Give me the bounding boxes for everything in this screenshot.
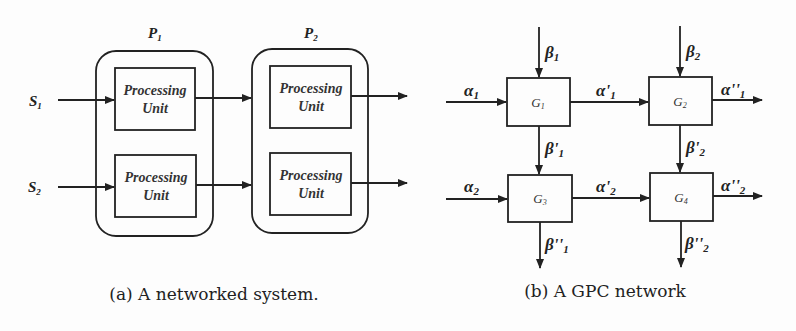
unit-label: Processing	[280, 168, 343, 183]
label-alpha-prime-2: α'2	[596, 177, 616, 197]
gpc-network-diagram: G1 G2 G3 G4 α1 α2 α'1 α'2 α''1 α''2 β1 β…	[446, 26, 762, 301]
label-alpha1: α1	[464, 81, 479, 101]
input-label-s1: S1	[29, 93, 42, 111]
processor-p1: P1 Processing Unit Processing Unit	[96, 25, 213, 236]
input-label-s2: S2	[28, 179, 41, 197]
label-beta-dprime-1: β''1	[544, 235, 569, 255]
caption-a: (a) A networked system.	[109, 284, 318, 304]
unit-label: Unit	[142, 101, 169, 116]
processing-unit	[115, 155, 196, 217]
node-label: G4	[674, 190, 687, 206]
unit-label: Unit	[143, 188, 170, 203]
processing-unit	[270, 66, 351, 128]
node-label: G3	[533, 191, 546, 207]
unit-label: Processing	[280, 81, 343, 96]
unit-label: Processing	[124, 83, 187, 98]
processor-label: P2	[304, 25, 318, 43]
figure-canvas: P1 Processing Unit Processing Unit P2 Pr…	[0, 0, 796, 331]
unit-label: Processing	[125, 170, 188, 185]
processing-unit	[270, 153, 351, 215]
label-alpha-prime-1: α'1	[596, 81, 616, 101]
label-beta-dprime-2: β''2	[684, 234, 709, 254]
unit-label: Unit	[298, 99, 325, 114]
processor-p2: P2 Processing Unit Processing Unit	[252, 25, 368, 233]
label-beta1: β1	[544, 43, 559, 63]
label-beta-prime-2: β'2	[685, 138, 705, 158]
label-beta2: β2	[685, 42, 701, 62]
processor-label: P1	[148, 25, 162, 43]
processing-unit	[115, 68, 195, 130]
label-alpha-dprime-2: α''2	[721, 176, 746, 196]
unit-label: Unit	[298, 186, 325, 201]
label-beta-prime-1: β'1	[544, 139, 564, 159]
networked-system-diagram: P1 Processing Unit Processing Unit P2 Pr…	[28, 25, 407, 304]
label-alpha-dprime-1: α''1	[721, 80, 745, 100]
node-label: G2	[673, 94, 686, 110]
node-label: G1	[531, 95, 544, 111]
label-alpha2: α2	[464, 177, 479, 197]
caption-b: (b) A GPC network	[524, 281, 686, 301]
